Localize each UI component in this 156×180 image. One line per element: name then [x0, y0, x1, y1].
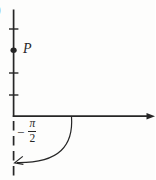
angle-fraction: π 2: [26, 118, 38, 144]
angle-numerator-pi: π: [28, 118, 36, 132]
point-p-label: P: [23, 42, 32, 56]
cropped-caption-fragment: ): [0, 3, 1, 17]
angle-arc-arrowhead: [15, 156, 24, 164]
axes-drawing: [0, 0, 155, 180]
point-p-marker: [11, 48, 17, 53]
figure-canvas: ) P − π 2: [0, 0, 155, 180]
angle-minus-sign: −: [17, 125, 24, 138]
angle-label: − π 2: [17, 118, 38, 144]
angle-denominator-2: 2: [29, 132, 35, 145]
x-axis-arrowhead: [147, 113, 156, 120]
